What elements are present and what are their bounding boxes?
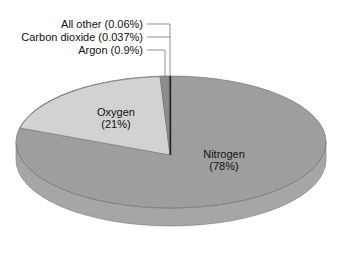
nitrogen-name: Nitrogen [196, 148, 252, 160]
oxygen-name: Oxygen [88, 106, 144, 118]
label-oxygen: Oxygen (21%) [88, 106, 144, 130]
label-all-other: All other (0.06%) [61, 18, 143, 30]
label-carbon-dioxide: Carbon dioxide (0.037%) [21, 31, 143, 43]
label-argon: Argon (0.9%) [78, 44, 143, 56]
leader-lines [147, 24, 170, 76]
oxygen-pct: (21%) [88, 118, 144, 130]
nitrogen-pct: (78%) [196, 160, 252, 172]
label-nitrogen: Nitrogen (78%) [196, 148, 252, 172]
leader-argon [147, 50, 165, 76]
